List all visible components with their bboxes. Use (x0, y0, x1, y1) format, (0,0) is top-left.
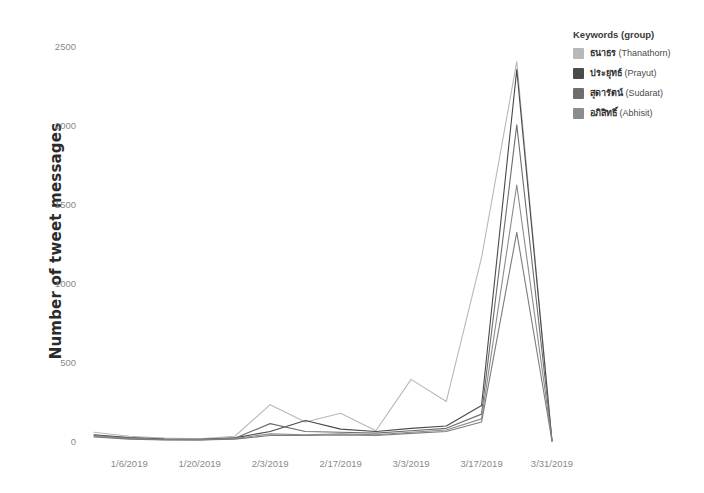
x-axis-tick-label: 1/6/2019 (111, 458, 148, 469)
x-axis-tick-label: 3/31/2019 (531, 458, 573, 469)
legend-item-label: อภิสิทธิ์ (Abhisit) (590, 106, 653, 120)
legend-item-label: ประยุทธ์ (Prayut) (590, 66, 657, 80)
chart-figure: Number of tweet messages 050010001500200… (0, 0, 704, 493)
series-line-prayut (94, 70, 552, 441)
legend-label-roman: (Sudarat) (623, 88, 663, 98)
x-axis-tick-label: 2/3/2019 (252, 458, 289, 469)
legend: Keywords (group) ธนาธร (Thanathorn)ประยุ… (573, 29, 699, 126)
legend-title: Keywords (group) (573, 29, 699, 40)
legend-label-roman: (Prayut) (622, 68, 657, 78)
legend-swatch-icon (573, 48, 584, 59)
legend-label-native: สุดารัตน์ (590, 88, 623, 98)
legend-item-1[interactable]: ธนาธร (Thanathorn) (573, 46, 699, 60)
legend-label-roman: (Thanathorn) (616, 48, 671, 58)
legend-item-label: สุดารัตน์ (Sudarat) (590, 86, 663, 100)
x-axis-tick-labels: 1/6/20191/20/20192/3/20192/17/20193/3/20… (0, 458, 704, 478)
series-line-abhisit_lower (94, 232, 552, 441)
legend-swatch-icon (573, 88, 584, 99)
legend-swatch-icon (573, 68, 584, 79)
legend-item-3[interactable]: สุดารัตน์ (Sudarat) (573, 86, 699, 100)
legend-item-4[interactable]: อภิสิทธิ์ (Abhisit) (573, 106, 699, 120)
x-axis-tick-label: 3/17/2019 (460, 458, 502, 469)
legend-item-label: ธนาธร (Thanathorn) (590, 46, 671, 60)
x-axis-tick-label: 1/20/2019 (179, 458, 221, 469)
legend-label-native: อภิสิทธิ์ (590, 108, 617, 118)
x-axis-tick-label: 2/17/2019 (319, 458, 361, 469)
legend-swatch-icon (573, 108, 584, 119)
x-axis-tick-label: 3/3/2019 (393, 458, 430, 469)
legend-label-native: ประยุทธ์ (590, 68, 622, 78)
legend-item-2[interactable]: ประยุทธ์ (Prayut) (573, 66, 699, 80)
legend-label-native: ธนาธร (590, 48, 616, 58)
legend-label-roman: (Abhisit) (617, 108, 653, 118)
